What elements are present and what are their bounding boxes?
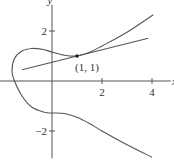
tangent-point-marker [75, 54, 79, 58]
y-tick-label: −2 [35, 125, 47, 137]
x-tick-label: 2 [99, 86, 105, 98]
point-annotation-label: (1, 1) [75, 61, 99, 74]
chart-svg: x y 242−2 (1, 1) [0, 0, 174, 163]
annotations-group: (1, 1) [75, 54, 99, 74]
series-curve [12, 15, 153, 158]
y-axis-label: y [47, 0, 53, 6]
chart-container: x y 242−2 (1, 1) [0, 0, 174, 163]
series-group [12, 15, 153, 158]
x-axis-label: x [171, 75, 174, 87]
y-tick-label: 2 [42, 25, 48, 37]
x-tick-label: 4 [149, 86, 155, 98]
